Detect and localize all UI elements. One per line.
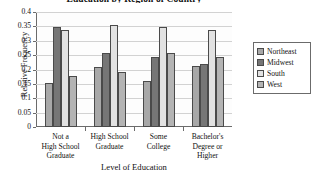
x-group-label-line: Bachelor's [179, 132, 237, 142]
legend-swatch-icon [257, 59, 264, 66]
y-tick-label: 0.4 [22, 8, 32, 16]
y-tick-mark [33, 26, 36, 27]
y-tick-label: 0.2 [22, 66, 32, 74]
x-tick-mark [134, 127, 135, 131]
bar [53, 27, 61, 127]
legend-item[interactable]: Midwest [257, 57, 308, 68]
gridline [36, 26, 232, 27]
y-tick-mark [33, 41, 36, 42]
x-tick-mark [85, 127, 86, 131]
y-tick-label: 0 [27, 123, 31, 131]
y-tick-mark [33, 12, 36, 13]
chart-title: Education by Region of Country [36, 0, 232, 3]
bar [143, 81, 151, 127]
legend-item[interactable]: South [257, 68, 308, 79]
x-group-label-line: Higher [179, 151, 237, 161]
legend-item[interactable]: Northeast [257, 46, 308, 57]
bar [192, 66, 200, 127]
legend-swatch-icon [257, 48, 264, 55]
x-group-label-line: Graduate [32, 151, 90, 161]
y-tick-label: 0.25 [18, 51, 31, 59]
bar [216, 57, 224, 127]
y-tick-mark [33, 70, 36, 71]
plot-area: 00.050.10.150.20.250.30.350.4 Not aHigh … [36, 12, 232, 127]
y-tick-label: 0.15 [18, 80, 31, 88]
bar [159, 27, 167, 127]
x-tick-mark [183, 127, 184, 131]
bar [45, 83, 53, 127]
y-tick-mark [33, 55, 36, 56]
bar [69, 76, 77, 127]
bar [151, 57, 159, 127]
legend-item-label: Northeast [267, 48, 297, 56]
legend: NortheastMidwestSouthWest [253, 42, 311, 94]
bar [61, 30, 69, 127]
x-group-label-line: Degree or [179, 142, 237, 152]
legend-item-label: West [267, 81, 282, 89]
bar [118, 72, 126, 127]
y-tick-label: 0.35 [18, 23, 31, 31]
gridline [36, 12, 232, 13]
chart-canvas: Education by Region of Country Relative … [0, 0, 315, 181]
bar [102, 53, 110, 127]
bar [208, 30, 216, 127]
y-tick-label: 0.1 [22, 94, 32, 102]
legend-item[interactable]: West [257, 79, 308, 90]
legend-swatch-icon [257, 81, 264, 88]
y-tick-mark [33, 127, 36, 128]
y-tick-mark [33, 113, 36, 114]
y-tick-label: 0.3 [22, 37, 32, 45]
y-tick-mark [33, 84, 36, 85]
legend-item-label: South [267, 70, 285, 78]
y-tick-label: 0.05 [18, 109, 31, 117]
bar [167, 53, 175, 127]
bar [200, 64, 208, 127]
y-tick-mark [33, 98, 36, 99]
bar [110, 25, 118, 127]
legend-item-label: Midwest [267, 59, 294, 67]
bar [94, 67, 102, 127]
x-axis-title: Level of Education [36, 162, 232, 172]
x-group-label: Bachelor'sDegree orHigher [179, 132, 237, 161]
legend-swatch-icon [257, 70, 264, 77]
